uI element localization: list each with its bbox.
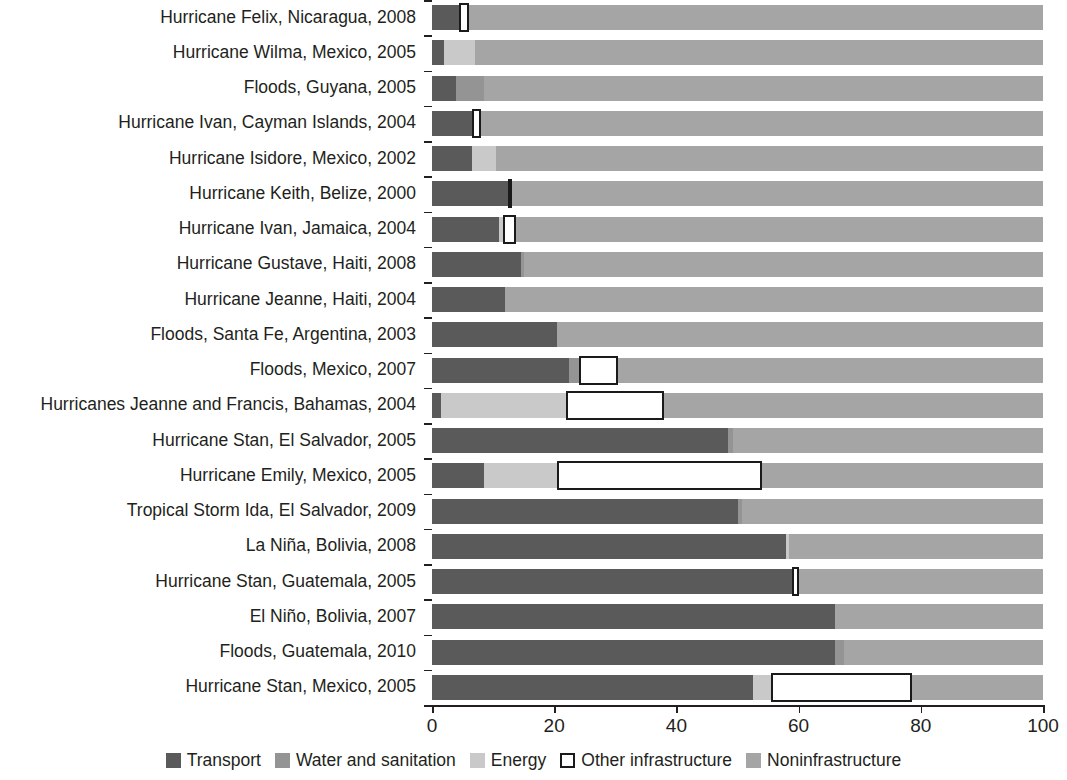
bar-segment-other [557, 461, 762, 490]
category-label: Floods, Guatemala, 2010 [0, 643, 416, 661]
legend-item[interactable]: Energy [470, 752, 546, 770]
y-axis-tick [424, 635, 432, 637]
bar-segment-other [792, 567, 798, 596]
category-label: Hurricane Emily, Mexico, 2005 [0, 467, 416, 485]
bar-segment-noninfra [557, 322, 1043, 347]
bar-segment-noninfra [481, 111, 1043, 136]
x-axis-tick-label: 20 [544, 716, 565, 735]
bar-segment-noninfra [733, 428, 1043, 453]
category-label: Hurricane Wilma, Mexico, 2005 [0, 44, 416, 62]
bar-segment-transport [432, 76, 456, 101]
x-axis-line [432, 705, 1044, 707]
bar-segment-transport [432, 181, 508, 206]
bar-row [432, 287, 1043, 312]
y-axis-tick [424, 71, 432, 73]
plot-area [432, 0, 1043, 705]
bar-segment-transport [432, 322, 557, 347]
bar-segment-water [456, 76, 483, 101]
bar-segment-transport [432, 428, 728, 453]
bar-segment-other [503, 215, 515, 244]
bar-row [432, 393, 1043, 418]
x-axis-tick-label: 100 [1027, 716, 1059, 735]
bar-segment-other [579, 356, 619, 385]
legend-swatch-icon [275, 753, 290, 768]
y-axis-tick [424, 317, 432, 319]
bar-segment-other [566, 391, 664, 420]
bar-segment-other [459, 3, 468, 32]
bar-row [432, 569, 1043, 594]
bar-segment-transport [432, 604, 835, 629]
y-axis-tick [424, 35, 432, 37]
bar-segment-noninfra [789, 534, 1043, 559]
legend-label: Transport [187, 752, 261, 770]
legend-swatch-icon [560, 753, 575, 768]
bar-segment-water [569, 358, 578, 383]
bar-segment-transport [432, 499, 738, 524]
category-label: Hurricane Jeanne, Haiti, 2004 [0, 291, 416, 309]
bar-segment-transport [432, 569, 792, 594]
x-axis-tick-label: 60 [788, 716, 809, 735]
y-axis-tick [424, 705, 432, 707]
chart-legend: TransportWater and sanitationEnergyOther… [0, 752, 1067, 770]
bar-segment-transport [432, 463, 484, 488]
y-axis-tick [424, 282, 432, 284]
bar-segment-energy [444, 40, 475, 65]
bar-segment-noninfra [618, 358, 1043, 383]
bar-segment-energy [472, 146, 496, 171]
y-axis-tick [424, 599, 432, 601]
bar-segment-energy [484, 463, 557, 488]
bar-row [432, 76, 1043, 101]
bar-segment-transport [432, 5, 459, 30]
bar-row [432, 146, 1043, 171]
category-label: Hurricane Stan, El Salvador, 2005 [0, 432, 416, 450]
bar-row [432, 358, 1043, 383]
bar-row [432, 604, 1043, 629]
y-axis-tick [424, 106, 432, 108]
y-axis-tick [424, 423, 432, 425]
bar-segment-energy [441, 393, 566, 418]
bar-segment-transport [432, 40, 444, 65]
x-axis-tick [554, 705, 556, 713]
bar-row [432, 534, 1043, 559]
legend-label: Other infrastructure [581, 752, 732, 770]
bar-segment-noninfra [844, 640, 1043, 665]
bar-row [432, 5, 1043, 30]
bar-segment-noninfra [799, 569, 1043, 594]
y-axis-tick [424, 494, 432, 496]
bar-segment-noninfra [484, 76, 1043, 101]
bar-row [432, 322, 1043, 347]
category-label: La Niña, Bolivia, 2008 [0, 537, 416, 555]
x-axis-tick [921, 705, 923, 713]
legend-label: Noninfrastructure [767, 752, 901, 770]
legend-swatch-icon [746, 753, 761, 768]
bar-segment-transport [432, 217, 499, 242]
stacked-bar-chart: Hurricane Felix, Nicaragua, 2008Hurrican… [0, 0, 1067, 780]
bar-segment-noninfra [469, 5, 1043, 30]
bar-row [432, 40, 1043, 65]
bar-segment-noninfra [511, 181, 1043, 206]
bar-segment-transport [432, 146, 472, 171]
y-axis-tick [424, 353, 432, 355]
bar-segment-noninfra [762, 463, 1043, 488]
bar-segment-transport [432, 675, 753, 700]
y-axis-tick [424, 141, 432, 143]
bar-segment-other [508, 179, 512, 208]
category-label: Floods, Santa Fe, Argentina, 2003 [0, 326, 416, 344]
bar-row [432, 181, 1043, 206]
bar-segment-water [835, 640, 844, 665]
y-axis-tick [424, 529, 432, 531]
y-axis-tick [424, 388, 432, 390]
category-label: Tropical Storm Ida, El Salvador, 2009 [0, 502, 416, 520]
legend-item[interactable]: Noninfrastructure [746, 752, 901, 770]
bar-segment-noninfra [742, 499, 1043, 524]
bar-row [432, 428, 1043, 453]
category-label: Floods, Guyana, 2005 [0, 79, 416, 97]
bar-row [432, 640, 1043, 665]
legend-item[interactable]: Water and sanitation [275, 752, 456, 770]
legend-item[interactable]: Transport [166, 752, 261, 770]
legend-item[interactable]: Other infrastructure [560, 752, 732, 770]
y-axis-tick [424, 0, 432, 2]
category-label: Hurricane Stan, Mexico, 2005 [0, 678, 416, 696]
bar-segment-noninfra [664, 393, 1043, 418]
category-label: Hurricane Felix, Nicaragua, 2008 [0, 9, 416, 27]
